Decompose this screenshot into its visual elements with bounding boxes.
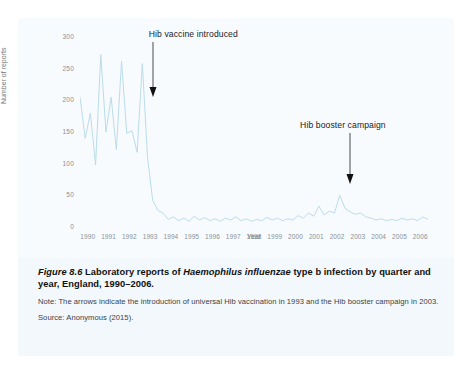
figure-note: Note: The arrows indicate the introducti… <box>38 297 442 307</box>
plot-area: Year <box>80 37 428 247</box>
y-axis-label: Number of reports <box>0 48 7 104</box>
figure-panel: Number of reports Year 05010015020025030… <box>18 18 454 356</box>
y-tick-150: 150 <box>48 128 74 135</box>
caption-species-name: Haemophilus influenzae <box>183 267 291 277</box>
line-chart-svg <box>80 37 428 247</box>
figure-page: Number of reports Year 05010015020025030… <box>0 0 472 367</box>
plot-wrapper: Number of reports Year 05010015020025030… <box>18 18 454 258</box>
y-tick-100: 100 <box>48 160 74 167</box>
y-tick-250: 250 <box>48 65 74 72</box>
caption-block: Figure 8.6 Laboratory reports of Haemoph… <box>38 266 442 324</box>
figure-number: Figure 8.6 <box>38 267 82 277</box>
chart-container: Number of reports Year 05010015020025030… <box>18 18 454 258</box>
figure-source: Source: Anonymous (2015). <box>38 313 442 323</box>
x-tick-2006: 2006 <box>405 233 435 240</box>
down-arrow-icon <box>345 133 355 185</box>
figure-caption: Figure 8.6 Laboratory reports of Haemoph… <box>38 266 442 291</box>
annotation-label-hib-booster: Hib booster campaign <box>300 120 386 130</box>
y-tick-200: 200 <box>48 96 74 103</box>
y-tick-50: 50 <box>48 191 74 198</box>
down-arrow-icon <box>148 42 158 98</box>
data-series-line <box>80 55 428 222</box>
y-tick-300: 300 <box>48 33 74 40</box>
annotation-label-hib-vaccine: Hib vaccine introduced <box>149 29 238 39</box>
y-tick-0: 0 <box>48 223 74 230</box>
caption-text-part1: Laboratory reports of <box>85 267 183 277</box>
